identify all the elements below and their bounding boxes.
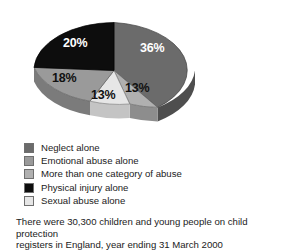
- legend-item-more-than-one-category: More than one category of abuse: [24, 168, 274, 181]
- chart-legend: Neglect alone Emotional abuse alone More…: [24, 141, 274, 208]
- chart-caption: There were 30,300 children and young peo…: [16, 216, 278, 251]
- legend-swatch-icon-sexual-abuse-alone: [24, 196, 34, 206]
- slice-label-physical-injury-alone: 18%: [52, 71, 77, 85]
- legend-item-sexual-abuse-alone: Sexual abuse alone: [24, 195, 274, 208]
- slice-label-more-than-one-category: 13%: [91, 88, 116, 102]
- legend-item-neglect-alone: Neglect alone: [24, 141, 274, 154]
- caption-line-1: There were 30,300 children and young peo…: [16, 216, 278, 239]
- legend-item-physical-injury-alone: Physical injury alone: [24, 181, 274, 194]
- slice-label-sexual-abuse-alone: 20%: [63, 36, 88, 50]
- legend-label-physical-injury-alone: Physical injury alone: [41, 183, 128, 193]
- pie-chart-figure: 36% 13% 13% 18% 20%: [0, 0, 287, 138]
- legend-swatch-icon-more-than-one-category: [24, 169, 34, 179]
- legend-swatch-icon-physical-injury-alone: [24, 183, 34, 193]
- pie-chart-svg: 36% 13% 13% 18% 20%: [0, 0, 287, 138]
- caption-line-2: registers in England, year ending 31 Mar…: [16, 239, 278, 251]
- slice-label-neglect-alone: 36%: [140, 41, 165, 55]
- legend-swatch-icon-emotional-abuse-alone: [24, 156, 34, 166]
- legend-label-neglect-alone: Neglect alone: [41, 143, 100, 153]
- legend-swatch-icon-neglect-alone: [24, 143, 34, 153]
- legend-label-more-than-one-category: More than one category of abuse: [41, 169, 182, 179]
- legend-item-emotional-abuse-alone: Emotional abuse alone: [24, 154, 274, 167]
- legend-label-sexual-abuse-alone: Sexual abuse alone: [41, 196, 125, 206]
- legend-label-emotional-abuse-alone: Emotional abuse alone: [41, 156, 139, 166]
- slice-label-emotional-abuse-alone: 13%: [125, 81, 150, 95]
